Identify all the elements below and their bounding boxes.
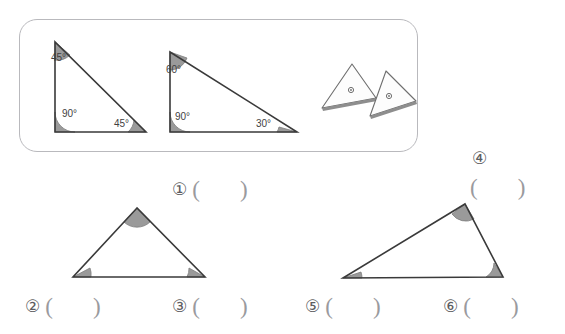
slot-6-parens[interactable]: () (463, 295, 518, 318)
slot-3-open-paren: ( (192, 295, 200, 318)
slot-4-open-paren: ( (470, 176, 478, 199)
angle-label-example1-bottom-right: 45° (114, 118, 129, 129)
angle-arc-apex-left-figure (124, 208, 150, 227)
slot-6-open-paren: ( (463, 295, 471, 318)
angle-label-example1-bottom-left: 90° (62, 108, 77, 119)
angle-arc-bottom-left-right-figure (343, 272, 362, 278)
isosceles-triangle-outline (73, 208, 205, 277)
angle-arc-top-right-figure (452, 204, 474, 221)
slot-2-open-paren: ( (45, 295, 53, 318)
slot-6-close-paren: ) (511, 295, 519, 318)
slot-5-close-paren: ) (373, 295, 381, 318)
slot-2-number: ② (25, 298, 40, 315)
slot-1-number: ① (172, 181, 187, 198)
slot-5-open-paren: ( (325, 295, 333, 318)
obtuse-triangle-figure (343, 204, 503, 278)
answer-slot-1[interactable]: ① () (172, 178, 248, 201)
slot-6-number: ⑥ (443, 298, 458, 315)
slot-3-close-paren: ) (240, 295, 248, 318)
answer-slot-6[interactable]: ⑥ () (443, 295, 519, 318)
angle-label-example2-bottom-left: 90° (175, 111, 190, 122)
slot-2-close-paren: ) (93, 295, 101, 318)
slot-1-open-paren: ( (192, 178, 200, 201)
answer-slot-3[interactable]: ③ () (172, 295, 248, 318)
worksheet-page: 45° 90° 45° 60° 90° 30° ① () ② () ③ () ④… (0, 0, 565, 334)
answer-slot-5[interactable]: ⑤ () (305, 295, 381, 318)
slot-3-parens[interactable]: () (192, 295, 247, 318)
slot-4-close-paren: ) (518, 176, 526, 199)
answer-slot-4[interactable]: ④ () (470, 150, 525, 199)
isosceles-triangle-figure (73, 208, 205, 277)
reference-examples-box (19, 19, 418, 152)
angle-arc-bottom-right-right-figure (486, 263, 503, 277)
angle-label-example1-top: 45° (51, 52, 66, 63)
slot-2-parens[interactable]: () (45, 295, 100, 318)
slot-1-close-paren: ) (240, 178, 248, 201)
answer-slot-2[interactable]: ② () (25, 295, 101, 318)
slot-4-parens[interactable]: () (470, 176, 525, 199)
angle-label-example2-bottom-right: 30° (256, 118, 271, 129)
slot-3-number: ③ (172, 298, 187, 315)
slot-1-parens[interactable]: () (192, 178, 247, 201)
slot-4-number: ④ (472, 150, 525, 167)
angle-arc-bottom-right-left-figure (187, 268, 205, 277)
obtuse-triangle-outline (343, 204, 503, 278)
angle-arc-bottom-left-left-figure (73, 268, 91, 277)
slot-5-parens[interactable]: () (325, 295, 380, 318)
slot-5-number: ⑤ (305, 298, 320, 315)
angle-label-example2-top: 60° (166, 64, 181, 75)
